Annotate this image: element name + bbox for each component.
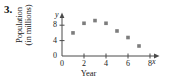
x-axis-tick-label: 6 <box>120 60 136 68</box>
data-point-markers <box>71 19 141 48</box>
data-point-marker <box>104 21 108 25</box>
axes-group <box>60 13 160 59</box>
y-axis-arrowhead <box>60 13 65 19</box>
scatter-plot: 02468 048 x y <box>0 0 177 83</box>
data-point-marker <box>126 36 130 40</box>
data-point-marker <box>137 44 141 48</box>
data-point-marker <box>93 19 97 23</box>
x-axis-tick-label: 2 <box>76 60 92 68</box>
y-axis-tick-label: 4 <box>46 37 57 45</box>
x-axis-tick-label: 4 <box>98 60 114 68</box>
y-axis-tick-label: 8 <box>46 21 57 29</box>
x-axis-variable-label: x <box>152 58 156 66</box>
figure-container: 3. Population (in millions) Year 02468 0… <box>0 0 177 83</box>
x-axis-tick-label: 0 <box>54 60 70 68</box>
plot-svg <box>0 0 177 83</box>
data-point-marker <box>82 21 86 25</box>
data-point-marker <box>115 29 119 33</box>
data-point-marker <box>71 31 75 35</box>
y-axis-variable-label: y <box>55 11 59 19</box>
y-axis-tick-label: 0 <box>46 52 57 60</box>
